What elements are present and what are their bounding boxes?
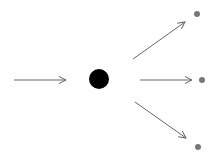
center-node [89, 69, 109, 89]
diagram-canvas [0, 0, 218, 163]
fan-out-diagram [0, 0, 218, 163]
target-node-3 [195, 144, 201, 150]
target-node-1 [194, 11, 200, 17]
target-node-2 [199, 77, 205, 83]
output-arrow-3 [135, 102, 186, 138]
output-arrow-1 [133, 22, 185, 59]
